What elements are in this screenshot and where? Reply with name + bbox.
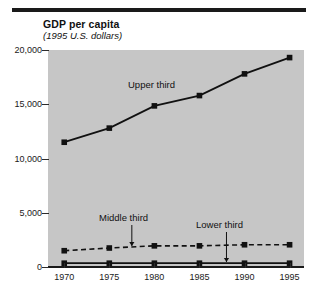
- y-tick-label: 5,000: [0, 208, 42, 218]
- annotation-arrow-head: [224, 258, 229, 262]
- y-tick-mark: [42, 50, 49, 51]
- x-tick-mark: [290, 263, 291, 268]
- x-tick-mark: [109, 263, 110, 268]
- y-tick-label: 10,000: [0, 154, 42, 164]
- x-tick-label: 1975: [87, 272, 131, 282]
- data-point-marker: [197, 93, 203, 99]
- annotation-upper-third: Upper third: [128, 79, 175, 90]
- series-line-0: [64, 58, 289, 143]
- x-tick-mark: [154, 263, 155, 268]
- x-tick-mark: [245, 263, 246, 268]
- annotation-middle-third: Middle third: [99, 212, 148, 223]
- x-tick-mark: [199, 263, 200, 268]
- annotation-lower-third: Lower third: [196, 219, 243, 230]
- gdp-per-capita-figure: GDP per capita (1995 U.S. dollars) 05,00…: [0, 0, 318, 300]
- y-tick-mark: [42, 213, 49, 214]
- y-tick-mark: [42, 104, 49, 105]
- data-point-marker: [107, 125, 113, 131]
- title-block: GDP per capita (1995 U.S. dollars): [43, 18, 273, 42]
- series-line-1: [64, 245, 289, 251]
- y-tick-label: 0: [0, 262, 42, 272]
- chart-title: GDP per capita: [43, 18, 273, 30]
- x-tick-label: 1985: [177, 272, 221, 282]
- x-tick-mark: [64, 263, 65, 268]
- data-point-marker: [107, 245, 113, 251]
- data-point-marker: [152, 103, 158, 109]
- data-point-marker: [61, 139, 67, 145]
- data-point-marker: [287, 55, 293, 61]
- data-point-marker: [242, 71, 248, 77]
- top-divider-rule: [12, 8, 306, 12]
- x-tick-label: 1995: [268, 272, 312, 282]
- chart-subtitle: (1995 U.S. dollars): [43, 30, 273, 42]
- y-tick-label: 15,000: [0, 99, 42, 109]
- plot-area: [48, 50, 304, 267]
- annotation-arrow-head: [129, 242, 134, 246]
- y-tick-mark: [42, 267, 49, 268]
- data-point-marker: [287, 242, 293, 248]
- x-tick-label: 1990: [223, 272, 267, 282]
- x-tick-label: 1970: [42, 272, 86, 282]
- y-tick-mark: [42, 159, 49, 160]
- data-point-marker: [61, 248, 67, 254]
- x-axis-baseline: [48, 266, 304, 268]
- y-tick-label: 20,000: [0, 45, 42, 55]
- plot-lines-svg: [48, 50, 304, 267]
- data-point-marker: [197, 243, 203, 249]
- x-tick-label: 1980: [132, 272, 176, 282]
- data-point-marker: [152, 243, 158, 249]
- data-point-marker: [242, 242, 248, 248]
